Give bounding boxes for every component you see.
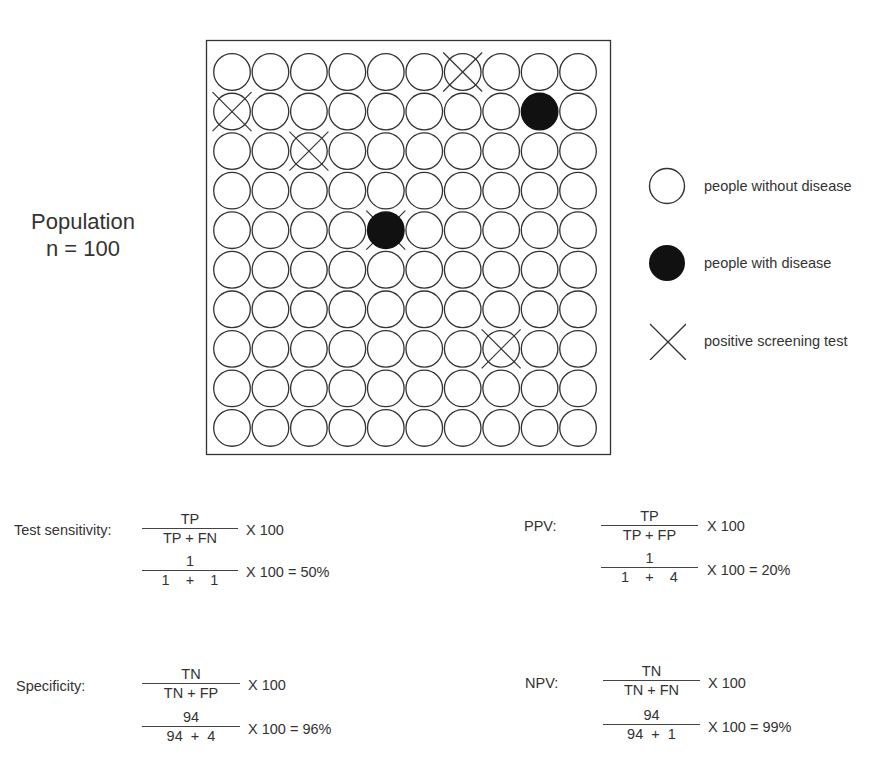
open-circle-icon xyxy=(329,291,366,328)
open-circle-icon xyxy=(521,212,558,249)
open-circle-icon xyxy=(648,167,686,205)
person-cell xyxy=(252,172,289,209)
open-circle-icon xyxy=(521,54,558,91)
open-circle-icon xyxy=(329,331,366,368)
person-cell xyxy=(252,410,289,447)
open-circle-icon xyxy=(521,251,558,288)
person-cell xyxy=(252,370,289,407)
open-circle-icon xyxy=(252,370,289,407)
person-cell xyxy=(483,212,520,249)
open-circle-icon xyxy=(252,251,289,288)
person-cell xyxy=(406,54,443,91)
fraction-general: TN TN + FN xyxy=(603,662,700,699)
open-circle-icon xyxy=(483,133,520,170)
open-circle-icon xyxy=(252,410,289,447)
open-circle-icon xyxy=(368,93,405,130)
denominator: TP + FP xyxy=(601,526,698,544)
person-cell xyxy=(560,251,597,288)
open-circle-icon xyxy=(368,54,405,91)
open-circle-icon xyxy=(483,251,520,288)
open-circle-icon xyxy=(291,410,328,447)
legend-item-positive-test: positive screening test xyxy=(648,321,686,361)
open-circle-icon xyxy=(444,331,481,368)
person-cell xyxy=(368,93,405,130)
open-circle-icon xyxy=(252,291,289,328)
open-circle-icon xyxy=(406,133,443,170)
person-cell xyxy=(252,331,289,368)
open-circle-icon xyxy=(368,410,405,447)
person-cell xyxy=(406,251,443,288)
open-circle-icon xyxy=(406,54,443,91)
person-cell xyxy=(406,212,443,249)
person-cell xyxy=(406,291,443,328)
open-circle-icon xyxy=(406,251,443,288)
open-circle-icon xyxy=(291,212,328,249)
person-cell xyxy=(444,133,481,170)
open-circle-icon xyxy=(291,370,328,407)
result: X 100 = 20% xyxy=(707,562,790,578)
person-cell xyxy=(291,212,328,249)
person-cell xyxy=(368,133,405,170)
open-circle-icon xyxy=(444,133,481,170)
person-cell xyxy=(214,410,251,447)
person-cell xyxy=(329,93,366,130)
person-cell xyxy=(444,212,481,249)
person-cell xyxy=(444,251,481,288)
open-circle-icon xyxy=(329,93,366,130)
denominator: 94 + 1 xyxy=(603,725,700,743)
open-circle-icon xyxy=(291,93,328,130)
person-cell xyxy=(252,93,289,130)
person-cell xyxy=(366,211,405,250)
person-cell xyxy=(368,291,405,328)
open-circle-icon xyxy=(483,410,520,447)
formula-label: Specificity: xyxy=(16,678,85,694)
filled-circle-icon xyxy=(368,212,405,249)
open-circle-icon xyxy=(329,370,366,407)
person-cell xyxy=(443,53,482,92)
person-cell xyxy=(329,133,366,170)
open-circle-icon xyxy=(214,54,251,91)
person-cell xyxy=(368,370,405,407)
person-cell xyxy=(560,212,597,249)
open-circle-icon xyxy=(444,172,481,209)
person-cell xyxy=(291,172,328,209)
open-circle-icon xyxy=(521,331,558,368)
person-cell xyxy=(329,331,366,368)
open-circle-icon xyxy=(406,172,443,209)
person-cell xyxy=(483,133,520,170)
person-cell xyxy=(291,54,328,91)
person-cell xyxy=(329,54,366,91)
formula-label: PPV: xyxy=(524,518,557,534)
person-cell xyxy=(291,251,328,288)
fraction-general: TN TN + FP xyxy=(142,665,240,702)
person-cell xyxy=(521,251,558,288)
open-circle-icon xyxy=(291,291,328,328)
open-circle-icon xyxy=(483,212,520,249)
formula-label: Test sensitivity: xyxy=(14,522,112,538)
open-circle-icon xyxy=(368,291,405,328)
open-circle-icon xyxy=(406,331,443,368)
open-circle-icon xyxy=(214,291,251,328)
population-label: Population n = 100 xyxy=(18,208,148,262)
open-circle-icon xyxy=(214,212,251,249)
open-circle-icon xyxy=(252,93,289,130)
person-cell xyxy=(444,331,481,368)
person-cell xyxy=(521,172,558,209)
open-circle-icon xyxy=(368,133,405,170)
open-circle-icon xyxy=(329,410,366,447)
person-cell xyxy=(368,251,405,288)
denominator: TN + FP xyxy=(142,684,240,702)
result: X 100 = 50% xyxy=(246,564,329,580)
person-cell xyxy=(252,54,289,91)
person-cell xyxy=(291,291,328,328)
numerator: TN xyxy=(142,665,240,683)
person-cell xyxy=(329,172,366,209)
open-circle-icon xyxy=(560,172,597,209)
filled-circle-icon xyxy=(648,244,686,282)
multiplier: X 100 xyxy=(246,522,284,538)
person-cell xyxy=(483,370,520,407)
open-circle-icon xyxy=(560,410,597,447)
open-circle-icon xyxy=(560,251,597,288)
open-circle-icon xyxy=(406,370,443,407)
person-cell xyxy=(560,370,597,407)
